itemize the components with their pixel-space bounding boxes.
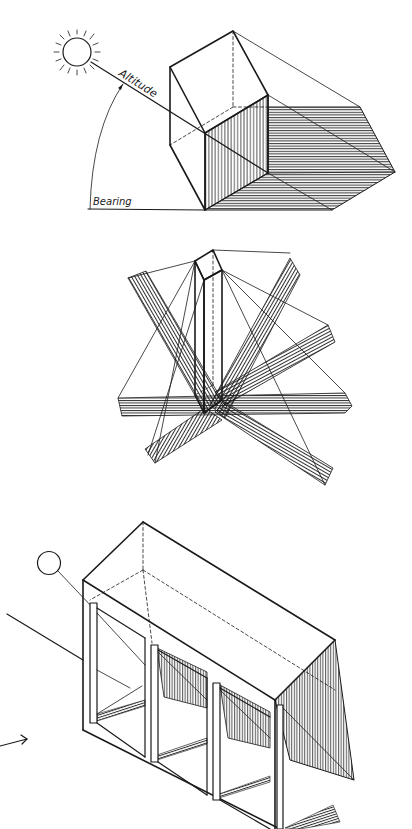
shelf-shadow-3 — [219, 776, 270, 798]
ground-line — [7, 614, 83, 660]
shadow-band-upper-left — [128, 271, 222, 413]
figure-shelf-shadow — [0, 510, 412, 829]
shelf-shadow-2 — [157, 738, 207, 760]
figure-2-svg — [0, 240, 412, 500]
shaded-bay-3 — [220, 685, 270, 748]
shaded-bay-2 — [157, 648, 207, 708]
shelf-shadow-1 — [97, 700, 145, 721]
bearing-label: Bearing — [93, 196, 132, 207]
shadow-bands — [118, 258, 352, 485]
shelf-shadow-4 — [285, 805, 340, 829]
figure-3-svg — [0, 510, 412, 829]
figure-1-svg: Altitude Bearing — [0, 0, 412, 230]
sun-ray — [58, 571, 93, 608]
figure-sun-altitude-bearing: Altitude Bearing — [0, 0, 412, 230]
shadow-band-lower-right — [215, 402, 333, 485]
figure-shadow-rotation — [0, 240, 412, 500]
arc-arrow-icon — [118, 84, 123, 90]
direction-arrow-icon — [0, 735, 27, 746]
altitude-label: Altitude — [116, 66, 160, 100]
shelf-outline — [83, 522, 335, 829]
shelf-hidden-edges — [90, 522, 335, 690]
sun-icon — [54, 30, 100, 75]
sun-icon — [38, 552, 61, 575]
bearing-baseline — [88, 209, 205, 210]
altitude-arc — [90, 84, 123, 209]
